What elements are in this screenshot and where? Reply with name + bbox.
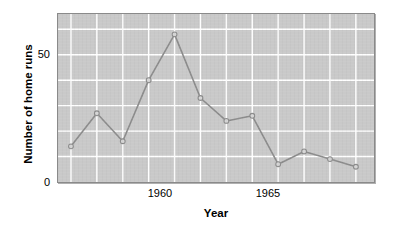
y-axis-tick-label: 0 — [22, 176, 50, 188]
chart-figure: Number of home runs 50 0 1960 1965 Year — [0, 0, 393, 230]
data-series-svg — [58, 14, 374, 182]
data-point-markers — [69, 32, 359, 169]
y-axis-tick-label: 50 — [22, 48, 50, 60]
gridlines — [58, 14, 374, 182]
x-axis-tick-label: 1960 — [138, 187, 182, 199]
plot-area — [57, 13, 375, 183]
x-axis-tick-label: 1965 — [246, 187, 290, 199]
x-axis-title: Year — [57, 207, 375, 219]
